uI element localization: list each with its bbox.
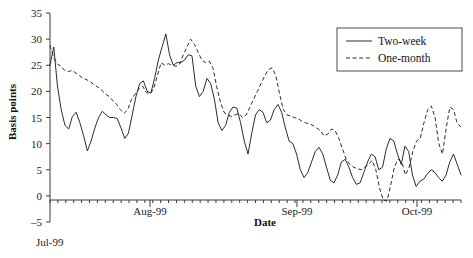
x-axis-title: Date — [254, 216, 276, 228]
x-tick-labels: Jul-99Aug-99Sep-99Oct-99 — [36, 205, 433, 248]
y-tick-marks — [46, 13, 50, 222]
y-tick-label: 10 — [31, 138, 43, 150]
legend-label-one-month: One-month — [378, 52, 431, 64]
y-tick-label: 15 — [31, 112, 43, 124]
y-tick-label: 35 — [31, 7, 43, 19]
x-tick-label: Sep-99 — [281, 205, 313, 217]
y-axis-title: Basis points — [6, 83, 18, 140]
y-tick-label: –5 — [30, 216, 43, 228]
y-tick-labels: –505101520253035 — [30, 7, 43, 228]
x-axis-group: Jul-99Aug-99Sep-99Oct-99 — [36, 200, 461, 248]
x-tick-label: Oct-99 — [402, 205, 433, 217]
x-tick-label: Jul-99 — [36, 236, 64, 248]
chart-legend: Two-week One-month — [337, 28, 462, 71]
y-axis-group: –505101520253035 — [30, 7, 50, 228]
y-tick-label: 5 — [37, 164, 43, 176]
x-tick-label: Aug-99 — [133, 205, 167, 217]
x-tick-marks — [50, 200, 461, 207]
y-tick-label: 25 — [31, 59, 43, 71]
legend-label-two-week: Two-week — [378, 35, 427, 47]
chart-figure: –505101520253035 Jul-99Aug-99Sep-99Oct-9… — [0, 0, 473, 258]
chart-canvas: –505101520253035 Jul-99Aug-99Sep-99Oct-9… — [0, 0, 473, 258]
y-tick-label: 0 — [37, 190, 43, 202]
y-tick-label: 20 — [31, 85, 43, 97]
y-tick-label: 30 — [31, 33, 43, 45]
